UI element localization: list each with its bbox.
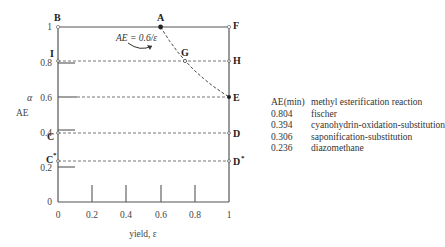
legend-row: 0.306 saponification-substitution	[271, 132, 445, 144]
svg-text:0.8: 0.8	[189, 210, 201, 220]
legend-header-name: methyl esterification reaction	[311, 97, 422, 109]
y-axis-label-ae: AE	[16, 108, 29, 118]
svg-text:0.8: 0.8	[40, 58, 52, 68]
curve-label: AE = 0.6/ε	[115, 33, 157, 43]
y-axis-label-alpha: α	[27, 92, 33, 103]
svg-text:0.6: 0.6	[40, 93, 52, 103]
label-G: G	[181, 47, 189, 58]
svg-text:0.4: 0.4	[40, 128, 52, 138]
svg-text:1: 1	[227, 210, 232, 220]
svg-text:0: 0	[56, 210, 61, 220]
svg-text:0.2: 0.2	[86, 210, 98, 220]
svg-text:0.2: 0.2	[40, 163, 52, 173]
plot-frame	[58, 27, 229, 202]
legend-row: 0.394 cyanohydrin-oxidation-substitution	[271, 120, 445, 132]
legend: AE(min) methyl esterification reaction 0…	[271, 97, 445, 155]
label-H: H	[233, 55, 241, 66]
label-D-star: D	[233, 156, 240, 167]
label-F: F	[233, 20, 239, 31]
left-inner-ticks	[58, 63, 77, 167]
label-A: A	[157, 12, 165, 23]
svg-text:1: 1	[47, 22, 52, 32]
legend-header-value: AE(min)	[271, 97, 311, 109]
x-axis-label: yield, ε	[129, 229, 157, 239]
legend-header: AE(min) methyl esterification reaction	[271, 97, 445, 109]
legend-row: 0.804 fischer	[271, 109, 445, 121]
label-D: D	[233, 128, 240, 139]
svg-text:0: 0	[47, 197, 52, 207]
bottom-inner-ticks	[92, 185, 195, 202]
legend-row: 0.236 diazomethane	[271, 143, 445, 155]
svg-text:0.6: 0.6	[155, 210, 167, 220]
label-C-star-sup: *	[53, 151, 57, 159]
svg-text:0.4: 0.4	[120, 210, 132, 220]
label-E: E	[233, 92, 240, 103]
dashed-lines	[58, 61, 229, 161]
x-tick-labels: 0 0.2 0.4 0.6 0.8 1	[56, 210, 232, 220]
curve-ae	[161, 27, 229, 97]
data-points	[56, 25, 231, 163]
label-B: B	[54, 12, 61, 23]
label-D-star-sup: *	[241, 154, 245, 162]
